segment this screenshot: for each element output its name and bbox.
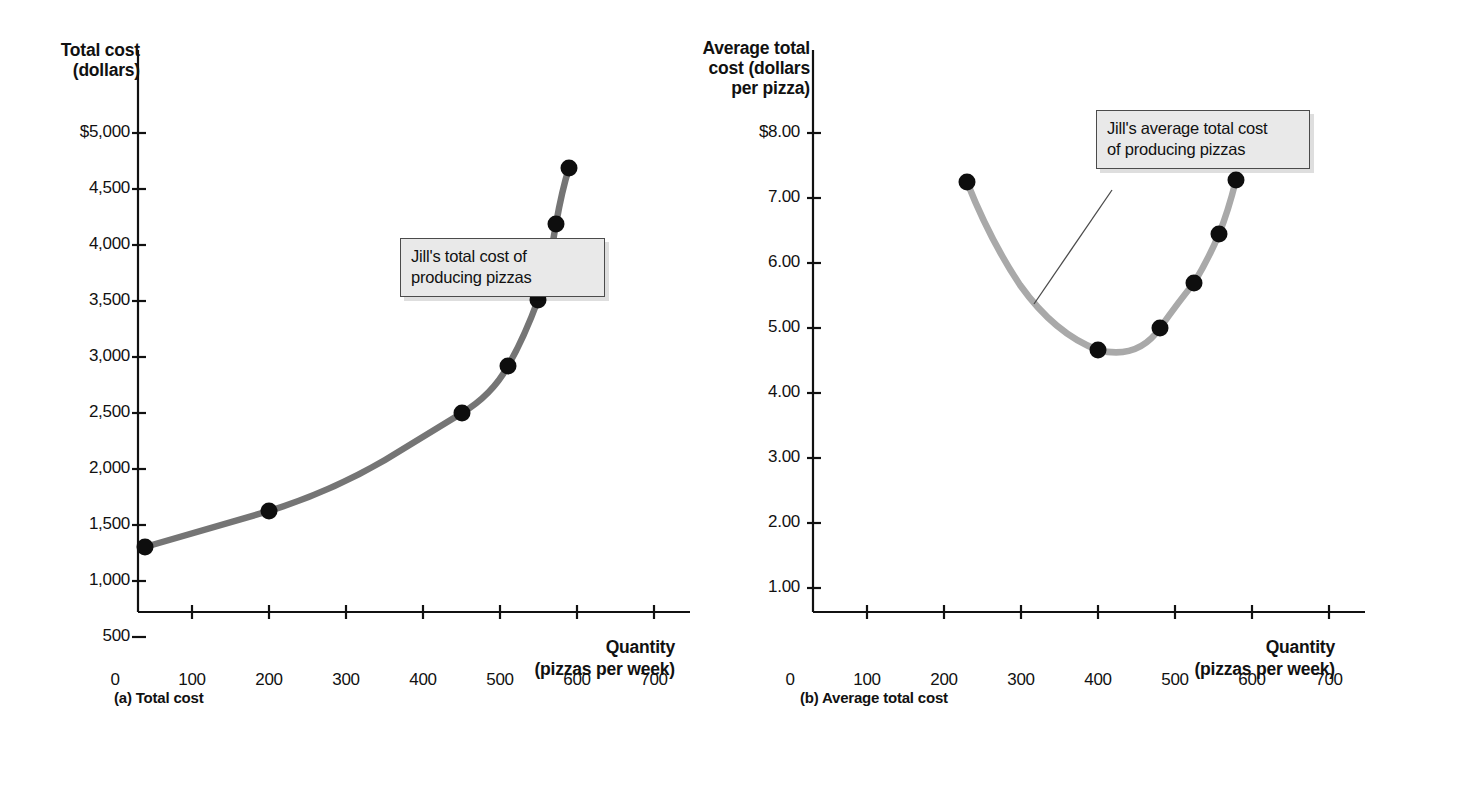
data-point [1211, 226, 1228, 243]
data-point [261, 503, 278, 520]
panel-caption-b: (b) Average total cost [800, 689, 948, 706]
data-point [561, 160, 578, 177]
data-point [1186, 275, 1203, 292]
data-point [1152, 320, 1169, 337]
callout-leader-line [1034, 190, 1112, 304]
data-point [137, 539, 154, 556]
x-axis-title-quantity: Quantity (pizzas per week) [1080, 636, 1335, 680]
data-point [454, 405, 471, 422]
data-point [1228, 172, 1245, 189]
data-point [1090, 342, 1107, 359]
plot-area-average-total-cost [660, 0, 1470, 787]
panel-caption-a: (a) Total cost [114, 689, 203, 706]
x-axis-title-quantity: Quantity (pizzas per week) [420, 636, 675, 680]
total-cost-curve [145, 168, 569, 547]
two-panel-cost-figure: Total cost (dollars) $5,000 4,500 4,000 … [0, 0, 1470, 787]
panel-total-cost: Total cost (dollars) $5,000 4,500 4,000 … [0, 0, 700, 787]
data-point [548, 216, 565, 233]
panel-average-total-cost: Average total cost (dollars per pizza) $… [660, 0, 1470, 787]
callout-average-total-cost: Jill's average total cost of producing p… [1096, 110, 1310, 169]
data-point [959, 174, 976, 191]
callout-total-cost: Jill's total cost of producing pizzas [400, 238, 605, 297]
data-point [500, 358, 517, 375]
